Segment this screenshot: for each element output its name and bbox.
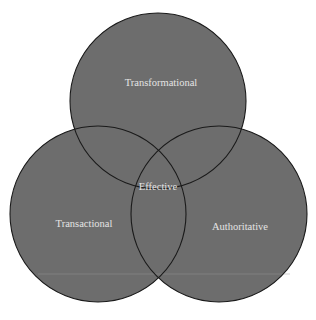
venn-diagram: Transformational Transactional Authorita… bbox=[0, 0, 316, 320]
label-transactional: Transactional bbox=[56, 218, 113, 229]
label-authoritative: Authoritative bbox=[212, 221, 268, 232]
circle-fills bbox=[10, 13, 307, 302]
label-effective-intersection: Effective bbox=[139, 181, 178, 192]
circle-authoritative-fill bbox=[131, 126, 307, 302]
label-transformational: Transformational bbox=[125, 77, 198, 88]
